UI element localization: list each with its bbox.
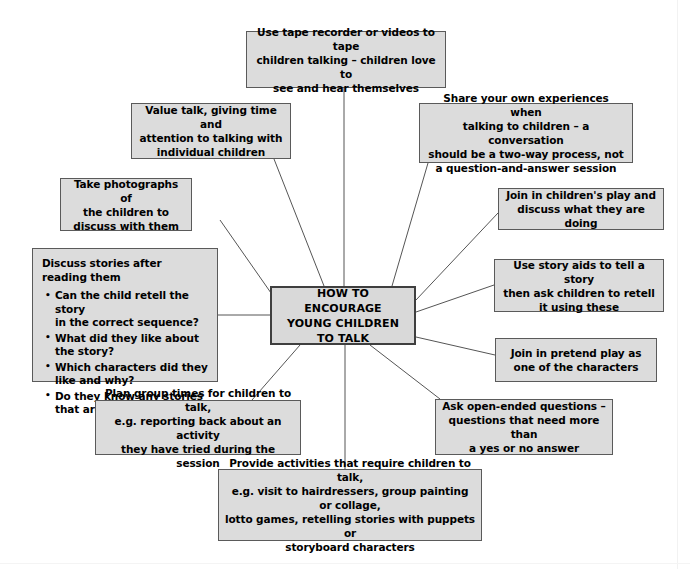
node-share-experiences-label: Share your own experiences when talking … bbox=[426, 91, 626, 175]
node-plan-group-times[interactable]: Plan group times for children to talk, e… bbox=[95, 400, 301, 455]
node-story-aids-label: Use story aids to tell a story then ask … bbox=[501, 258, 657, 314]
mindmap-page: Use tape recorder or videos to tape chil… bbox=[0, 0, 690, 569]
node-join-childrens-play-label: Join in children's play and discuss what… bbox=[505, 188, 657, 230]
node-take-photographs[interactable]: Take photographs of the children to disc… bbox=[60, 178, 192, 231]
connector-share-experiences bbox=[392, 163, 428, 286]
connector-story-aids bbox=[416, 285, 494, 312]
node-story-aids[interactable]: Use story aids to tell a story then ask … bbox=[494, 259, 664, 312]
node-discuss-stories[interactable]: Discuss stories after reading them Can t… bbox=[32, 248, 218, 382]
node-open-ended-questions[interactable]: Ask open-ended questions – questions tha… bbox=[435, 399, 613, 455]
connector-value-talk bbox=[274, 159, 324, 286]
list-item: What did they like about the story? bbox=[55, 332, 209, 359]
connector-pretend-play bbox=[416, 337, 495, 355]
node-pretend-play-label: Join in pretend play as one of the chara… bbox=[502, 346, 650, 374]
node-provide-activities[interactable]: Provide activities that require children… bbox=[218, 469, 482, 541]
list-item: Can the child retell the story in the co… bbox=[55, 289, 209, 330]
node-pretend-play[interactable]: Join in pretend play as one of the chara… bbox=[495, 338, 657, 382]
node-join-childrens-play[interactable]: Join in children's play and discuss what… bbox=[498, 188, 664, 230]
node-tape-recorder-label: Use tape recorder or videos to tape chil… bbox=[253, 25, 439, 95]
node-tape-recorder[interactable]: Use tape recorder or videos to tape chil… bbox=[246, 31, 446, 88]
node-take-photographs-label: Take photographs of the children to disc… bbox=[67, 177, 185, 233]
list-item: Which characters did they like and why? bbox=[55, 361, 209, 388]
node-open-ended-questions-label: Ask open-ended questions – questions tha… bbox=[442, 399, 606, 455]
node-provide-activities-label: Provide activities that require children… bbox=[225, 456, 475, 554]
node-center-topic[interactable]: HOW TO ENCOURAGE YOUNG CHILDREN TO TALK bbox=[270, 286, 416, 345]
node-center-topic-label: HOW TO ENCOURAGE YOUNG CHILDREN TO TALK bbox=[278, 286, 408, 346]
node-share-experiences[interactable]: Share your own experiences when talking … bbox=[419, 103, 633, 163]
node-discuss-stories-heading: Discuss stories after reading them bbox=[42, 256, 209, 284]
connector-join-childrens-play bbox=[416, 213, 498, 300]
connector-open-ended bbox=[370, 345, 440, 399]
node-value-talk-label: Value talk, giving time and attention to… bbox=[138, 103, 284, 159]
node-value-talk[interactable]: Value talk, giving time and attention to… bbox=[131, 103, 291, 159]
